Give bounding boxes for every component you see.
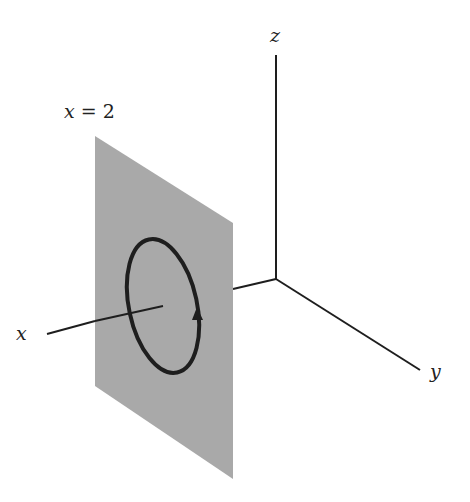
x-axis-back-segment [233,279,276,289]
plane-label: x = 2 [64,100,115,122]
plane-x-equals-2 [95,136,233,479]
plane-label-variable: x [64,100,75,122]
y-axis [276,279,420,370]
z-axis-label: z [269,24,281,46]
coordinate-diagram: z y x x = 2 [0,0,470,502]
y-axis-label: y [429,360,441,382]
plane-label-equals: = [75,100,103,122]
plane-label-value: 2 [103,100,115,122]
x-axis-label: x [16,322,27,344]
x-axis-outer-segment [47,321,95,334]
